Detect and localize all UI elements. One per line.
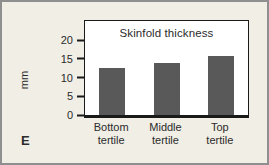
y-axis: 05101520 (2, 21, 84, 115)
y-tick: 10 (61, 72, 84, 83)
x-category-label: Middle tertile (138, 121, 192, 147)
x-axis-labels: Bottom tertileMiddle tertileTop tertile (84, 121, 249, 151)
panel-label: E (21, 133, 30, 148)
bars-container (85, 21, 248, 115)
y-tick: 5 (67, 91, 84, 102)
x-category-label: Bottom tertile (84, 121, 138, 147)
y-tick-label: 0 (67, 110, 73, 121)
y-tick-mark (77, 39, 84, 41)
y-tick-mark (77, 95, 84, 97)
y-tick-mark (77, 77, 84, 79)
bar (99, 68, 125, 115)
y-tick-mark (77, 114, 84, 116)
bar (208, 56, 234, 115)
y-tick-mark (77, 58, 84, 60)
x-category-label: Top tertile (193, 121, 247, 147)
y-tick: 0 (67, 110, 84, 121)
y-tick-label: 5 (67, 91, 73, 102)
y-tick-label: 10 (61, 72, 73, 83)
y-tick: 20 (61, 35, 84, 46)
y-tick: 15 (61, 53, 84, 64)
y-tick-label: 20 (61, 35, 73, 46)
bar (154, 63, 180, 116)
y-tick-label: 15 (61, 53, 73, 64)
plot-area: Skinfold thickness (84, 20, 249, 118)
chart-panel-frame: mm 05101520 Skinfold thickness Bottom te… (0, 0, 269, 165)
